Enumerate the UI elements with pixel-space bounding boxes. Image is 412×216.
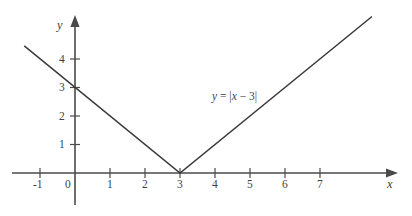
x-tick-label-5: 5 bbox=[247, 179, 253, 191]
equation-equals: = | bbox=[217, 90, 232, 102]
x-tick-label-7: 7 bbox=[317, 179, 323, 191]
y-tick-label-3: 3 bbox=[59, 82, 65, 94]
equation-rhs: − 3| bbox=[237, 90, 257, 102]
x-tick-label-3: 3 bbox=[177, 179, 183, 191]
graph-figure: -1 1 2 3 4 5 6 7 0 1 2 3 4 y x y = |x − … bbox=[0, 0, 412, 216]
x-tick-label-2: 2 bbox=[142, 179, 148, 191]
x-tick-label-6: 6 bbox=[282, 179, 288, 191]
coordinate-plane bbox=[0, 0, 412, 216]
x-tick-label-4: 4 bbox=[212, 179, 218, 191]
y-tick-label-1: 1 bbox=[59, 139, 65, 151]
x-tick-label-1: 1 bbox=[107, 179, 113, 191]
x-tick-label--1: -1 bbox=[33, 179, 43, 191]
curve-equation-label: y = |x − 3| bbox=[212, 91, 257, 103]
origin-label: 0 bbox=[65, 179, 71, 191]
y-axis-arrow-icon bbox=[70, 15, 79, 27]
y-tick-label-2: 2 bbox=[59, 111, 65, 123]
curve-absolute-value bbox=[24, 17, 372, 174]
y-axis-label: y bbox=[57, 19, 63, 32]
y-tick-label-4: 4 bbox=[59, 54, 65, 66]
x-axis-label: x bbox=[387, 178, 393, 191]
